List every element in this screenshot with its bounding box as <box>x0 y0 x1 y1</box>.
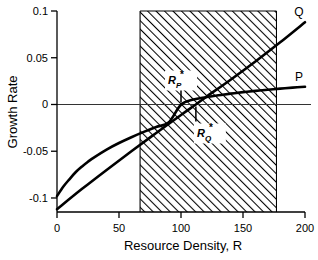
y-tick-label: 0.05 <box>27 52 48 64</box>
shaded-region-hatched <box>140 11 276 212</box>
x-tick-label: 100 <box>172 222 190 234</box>
x-axis-title: Resource Density, R <box>124 238 242 253</box>
x-tick-label: 150 <box>234 222 252 234</box>
annotation-p-star: * <box>180 69 184 80</box>
x-axis-ticks: 050100150200 <box>54 212 314 234</box>
annotation-q-subscript: Q <box>205 134 212 143</box>
annotation-q-star: * <box>209 122 213 133</box>
y-tick-label: -0.05 <box>23 145 48 157</box>
y-tick-label: -0.1 <box>29 192 48 204</box>
annotation-p-subscript: P <box>176 81 182 90</box>
y-tick-label: 0 <box>42 98 48 110</box>
x-tick-label: 200 <box>296 222 314 234</box>
y-axis-ticks: 0.10.050-0.05-0.1 <box>23 5 57 204</box>
annotation-q-main: R <box>197 127 205 139</box>
annotation-p-main: R <box>168 74 176 86</box>
x-tick-label: 0 <box>54 222 60 234</box>
chart-canvas: 0.10.050-0.05-0.1 050100150200 Q P R P *… <box>0 0 318 260</box>
curve-label-p: P <box>295 70 303 84</box>
growth-rate-vs-resource-density-chart: 0.10.050-0.05-0.1 050100150200 Q P R P *… <box>0 0 318 260</box>
y-tick-label: 0.1 <box>33 5 48 17</box>
x-tick-label: 50 <box>113 222 125 234</box>
hatch-fill <box>140 11 276 212</box>
curve-label-q: Q <box>294 5 303 19</box>
y-axis-title: Growth Rate <box>5 76 20 149</box>
